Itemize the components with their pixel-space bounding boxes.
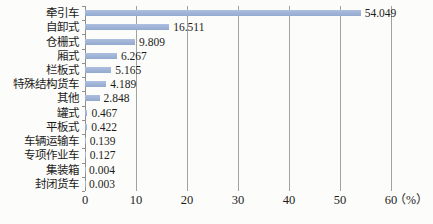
x-tick-label: 20 bbox=[167, 193, 207, 207]
bar bbox=[85, 81, 106, 87]
category-label: 其他 bbox=[0, 92, 79, 104]
bar bbox=[85, 67, 111, 73]
chart-row: 集装箱0.004 bbox=[0, 163, 433, 177]
truck-type-share-bar-chart: 牵引车54.049自卸式16.511仓栅式9.809厢式6.267栏板式5.16… bbox=[0, 0, 433, 224]
chart-row: 罐式0.467 bbox=[0, 106, 433, 120]
chart-row: 平板式0.422 bbox=[0, 120, 433, 134]
bar bbox=[85, 39, 135, 45]
x-tick-label: 60 bbox=[371, 193, 411, 207]
category-label: 特殊结构货车 bbox=[0, 78, 79, 90]
x-tick-label: 10 bbox=[116, 193, 156, 207]
value-label: 9.809 bbox=[139, 36, 165, 48]
category-label: 栏板式 bbox=[0, 64, 79, 76]
chart-row: 特殊结构货车4.189 bbox=[0, 77, 433, 91]
bar bbox=[85, 181, 86, 187]
bar bbox=[85, 53, 117, 59]
category-label: 封闭货车 bbox=[0, 178, 79, 190]
value-label: 0.467 bbox=[91, 107, 117, 119]
x-tick-label: 50 bbox=[320, 193, 360, 207]
category-label: 车辆运输车 bbox=[0, 135, 79, 147]
x-tick-label: 40 bbox=[269, 193, 309, 207]
category-label: 自卸式 bbox=[0, 21, 79, 33]
chart-row: 车辆运输车0.139 bbox=[0, 134, 433, 148]
chart-row: 其他2.848 bbox=[0, 91, 433, 105]
chart-row: 厢式6.267 bbox=[0, 49, 433, 63]
value-label: 5.165 bbox=[115, 64, 141, 76]
bar bbox=[85, 167, 86, 173]
value-label: 0.003 bbox=[89, 178, 115, 190]
chart-row: 仓栅式9.809 bbox=[0, 34, 433, 48]
value-label: 4.189 bbox=[110, 78, 136, 90]
bar bbox=[85, 110, 87, 116]
x-tick-label: 30 bbox=[218, 193, 258, 207]
value-label: 2.848 bbox=[104, 92, 130, 104]
value-label: 54.049 bbox=[365, 7, 397, 19]
category-label: 罐式 bbox=[0, 107, 79, 119]
bar bbox=[85, 10, 361, 16]
value-label: 16.511 bbox=[173, 21, 204, 33]
y-axis-tick bbox=[82, 191, 85, 192]
category-label: 仓栅式 bbox=[0, 36, 79, 48]
value-label: 6.267 bbox=[121, 50, 147, 62]
chart-row: 封闭货车0.003 bbox=[0, 177, 433, 191]
value-label: 0.422 bbox=[91, 121, 117, 133]
category-label: 厢式 bbox=[0, 50, 79, 62]
bar bbox=[85, 152, 86, 158]
x-tick-label: 0 bbox=[65, 193, 105, 207]
value-label: 0.004 bbox=[89, 164, 115, 176]
chart-row: 自卸式16.511 bbox=[0, 20, 433, 34]
chart-row: 专项作业车0.127 bbox=[0, 148, 433, 162]
chart-row: 牵引车54.049 bbox=[0, 6, 433, 20]
value-label: 0.139 bbox=[90, 135, 116, 147]
category-label: 专项作业车 bbox=[0, 149, 79, 161]
bar bbox=[85, 124, 87, 130]
bar bbox=[85, 138, 86, 144]
bar bbox=[85, 95, 100, 101]
value-label: 0.127 bbox=[90, 149, 116, 161]
category-label: 牵引车 bbox=[0, 7, 79, 19]
category-label: 集装箱 bbox=[0, 164, 79, 176]
chart-row: 栏板式5.165 bbox=[0, 63, 433, 77]
category-label: 平板式 bbox=[0, 121, 79, 133]
bar bbox=[85, 24, 169, 30]
